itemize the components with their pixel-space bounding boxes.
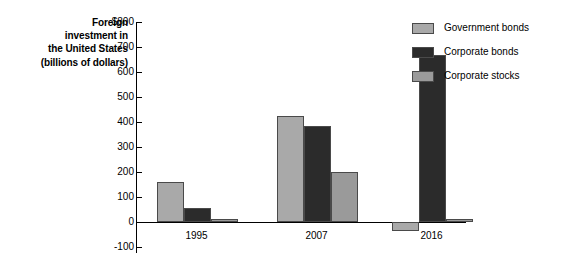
bar-chart-figure: Foreign investment in the United States … xyxy=(0,0,568,258)
bar xyxy=(211,219,238,222)
y-axis-tick-label: 300 xyxy=(82,141,134,153)
bar xyxy=(446,219,473,222)
legend-item: Corporate stocks xyxy=(412,64,562,88)
y-axis-tick: 300 xyxy=(76,141,142,153)
bar xyxy=(157,182,184,223)
x-axis-label: 2007 xyxy=(272,230,362,242)
y-axis-tick: 400 xyxy=(76,116,142,128)
y-axis-tick-label: 200 xyxy=(82,166,134,178)
y-axis-tick-label: 0 xyxy=(82,216,134,228)
legend-swatch-government-bonds xyxy=(412,23,434,34)
legend-swatch-corporate-stocks xyxy=(412,71,434,82)
x-axis-label: 2016 xyxy=(387,230,477,242)
legend-label-corporate-stocks: Corporate stocks xyxy=(444,70,520,82)
y-axis-tick: 0 xyxy=(76,216,142,228)
bar xyxy=(184,208,211,223)
y-axis-tick: 700 xyxy=(76,41,142,53)
y-axis-tick-label: 100 xyxy=(82,191,134,203)
y-axis-tick: 500 xyxy=(76,91,142,103)
legend-label-government-bonds: Government bonds xyxy=(444,22,529,34)
y-axis-tick: $800 xyxy=(76,16,142,28)
y-axis-tick: 600 xyxy=(76,66,142,78)
legend-label-corporate-bonds: Corporate bonds xyxy=(444,46,519,58)
y-axis-tick-label: 500 xyxy=(82,91,134,103)
y-axis-tick: -100 xyxy=(76,241,142,253)
y-axis-tick-label: 600 xyxy=(82,66,134,78)
y-axis-tick-label: -100 xyxy=(82,241,134,253)
x-axis-label: 1995 xyxy=(152,230,242,242)
bar xyxy=(277,116,304,222)
legend-item: Corporate bonds xyxy=(412,40,562,64)
legend-item: Government bonds xyxy=(412,16,562,40)
legend-swatch-corporate-bonds xyxy=(412,47,434,58)
bar xyxy=(331,172,358,222)
y-axis-tick-label: 700 xyxy=(82,41,134,53)
y-axis-tick-label: 400 xyxy=(82,116,134,128)
bar xyxy=(304,126,331,222)
y-axis-tick-label: $800 xyxy=(82,16,134,28)
y-axis-tick: 100 xyxy=(76,191,142,203)
chart-legend: Government bonds Corporate bonds Corpora… xyxy=(412,16,562,88)
y-axis-tick: 200 xyxy=(76,166,142,178)
